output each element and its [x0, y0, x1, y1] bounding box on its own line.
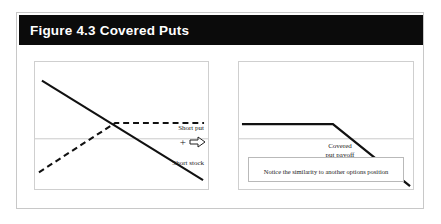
figure-title: Figure 4.3 Covered Puts	[19, 23, 189, 38]
short-put-label: Short put	[178, 124, 204, 133]
payoff-label-line1: Covered	[328, 142, 352, 150]
caption-box: Notice the similarity to another options…	[248, 157, 404, 182]
figure-title-band: Figure 4.3 Covered Puts	[19, 15, 423, 45]
result-panel: Covered put payoff Notice the similarity…	[238, 61, 414, 190]
figure-screenshot: Figure 4.3 Covered Puts Short put Short …	[0, 0, 441, 224]
components-panel: Short put Short stock +	[34, 61, 209, 190]
arrow-right-icon	[189, 136, 206, 148]
caption-text: Notice the similarity to another options…	[264, 168, 389, 175]
short-stock-label: Short stock	[172, 159, 204, 168]
plus-sign-label: +	[180, 137, 186, 148]
figure-frame: Figure 4.3 Covered Puts Short put Short …	[16, 12, 424, 209]
combine-operator-group: +	[180, 136, 206, 148]
